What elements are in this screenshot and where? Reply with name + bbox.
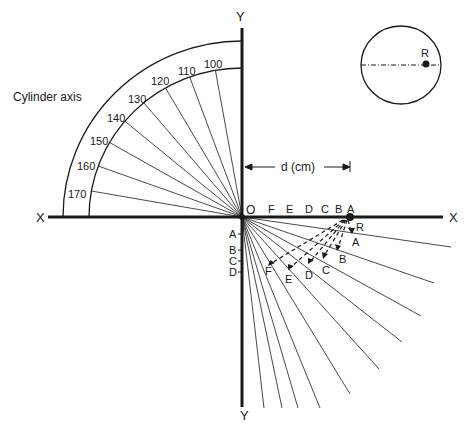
- y-axis-top-label: Y: [236, 9, 245, 24]
- svg-text:C: C: [321, 203, 329, 215]
- svg-text:F: F: [265, 265, 272, 277]
- x-axis-points: F E D C B A: [268, 203, 355, 215]
- inset-point-r: [423, 61, 430, 68]
- tick-150: 150: [90, 135, 108, 147]
- tick-120: 120: [151, 75, 169, 87]
- y-axis-bottom-label: Y: [240, 408, 249, 423]
- fan-lines: [242, 217, 451, 408]
- svg-text:B: B: [335, 203, 342, 215]
- svg-text:B: B: [339, 253, 346, 265]
- svg-text:D: D: [229, 266, 237, 278]
- tick-110: 110: [178, 65, 196, 77]
- reference-point-label: R: [356, 221, 364, 233]
- tick-160: 160: [77, 160, 95, 172]
- svg-text:D: D: [305, 269, 313, 281]
- origin-label: O: [246, 203, 255, 217]
- svg-text:D: D: [305, 203, 313, 215]
- svg-text:A: A: [352, 236, 360, 248]
- cylinder-axis-title: Cylinder axis: [13, 90, 82, 104]
- inset-point-label: R: [421, 47, 429, 59]
- x-axis-left-label: X: [36, 210, 45, 225]
- inset-circle: R: [361, 26, 441, 104]
- reference-point-r: [346, 213, 354, 221]
- astigmatism-diagram: 100 110 120 130 140 150 160 170 Cylinder…: [0, 0, 471, 435]
- tick-170: 170: [68, 188, 86, 200]
- dimension-label: d (cm): [281, 160, 315, 174]
- svg-text:C: C: [322, 264, 330, 276]
- svg-text:E: E: [286, 203, 293, 215]
- y-axis-points: A B C D: [229, 228, 237, 278]
- x-axis-right-label: X: [449, 210, 458, 225]
- tick-130: 130: [128, 93, 146, 105]
- origin-dot: [239, 214, 245, 220]
- tick-140: 140: [107, 112, 125, 124]
- axes: [48, 28, 443, 407]
- svg-text:A: A: [229, 228, 237, 240]
- axis-rays: [91, 70, 242, 217]
- svg-text:F: F: [268, 203, 275, 215]
- tick-100: 100: [204, 58, 222, 70]
- protractor-labels: 100 110 120 130 140 150 160 170: [68, 58, 222, 200]
- svg-text:E: E: [285, 273, 292, 285]
